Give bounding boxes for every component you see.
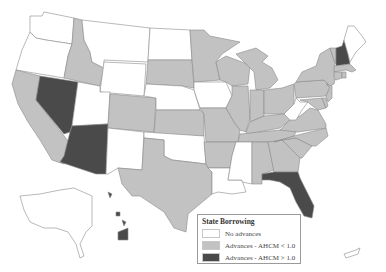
legend-label: No advances	[225, 230, 261, 238]
state-CO	[108, 94, 156, 132]
legend-title: State Borrowing	[202, 217, 296, 226]
state-ND	[148, 28, 192, 60]
legend-item-no-advances: No advances	[202, 228, 296, 239]
legend-swatch-white	[202, 229, 220, 238]
state-IA	[194, 82, 232, 108]
state-WY	[100, 62, 146, 96]
state-MT	[82, 20, 150, 68]
state-RI	[342, 72, 346, 78]
state-NM	[106, 128, 144, 174]
legend-item-advances-low: Advances - AHCM < 1.0	[202, 240, 296, 251]
state-HI	[108, 192, 128, 240]
state-SD	[146, 60, 194, 88]
us-states-map	[0, 0, 386, 272]
state-NY	[296, 48, 336, 86]
state-KS	[154, 110, 204, 136]
legend-swatch-gray	[202, 241, 220, 250]
state-PA	[294, 80, 330, 98]
legend-label: Advances - AHCM < 1.0	[225, 242, 295, 250]
legend-item-advances-high: Advances - AHCM > 1.0	[202, 252, 296, 263]
legend-label: Advances - AHCM > 1.0	[225, 254, 295, 262]
state-PR	[344, 248, 360, 258]
state-CT	[334, 72, 342, 80]
map-legend: State Borrowing No advances Advances - A…	[197, 214, 301, 264]
state-FL	[262, 172, 314, 218]
state-AK	[20, 188, 92, 258]
legend-swatch-dark	[202, 253, 220, 262]
